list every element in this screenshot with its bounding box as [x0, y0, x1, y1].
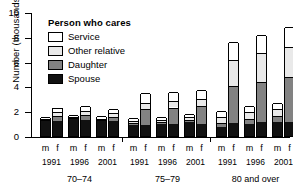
bar-segment-other	[169, 101, 178, 108]
y-axis-tick	[25, 137, 31, 138]
group-separator-tick	[210, 137, 211, 142]
bar-segment-daughter	[229, 86, 238, 123]
bar	[96, 117, 107, 137]
x-axis-sex-label: f	[284, 144, 293, 153]
legend-swatch	[48, 46, 63, 56]
x-axis-age-group-label: 80 and over	[216, 175, 294, 184]
bar-segment-daughter	[185, 120, 194, 122]
legend-swatch	[48, 32, 63, 42]
legend-item: Service	[48, 30, 168, 44]
bar-segment-service	[285, 27, 293, 47]
bar-segment-daughter	[109, 117, 118, 121]
bar-segment-service	[129, 118, 138, 121]
bar-segment-service	[81, 106, 90, 110]
bar-segment-other	[129, 121, 138, 123]
y-axis-tick	[25, 63, 31, 64]
bar-segment-other	[141, 103, 150, 109]
bar-segment-spouse	[217, 127, 226, 136]
bar-segment-other	[245, 112, 254, 118]
x-axis-sex-label: m	[216, 144, 227, 153]
legend-item-label: Spouse	[68, 74, 100, 84]
bar-segment-daughter	[141, 109, 150, 125]
bar	[140, 94, 151, 137]
bar-segment-service	[109, 109, 118, 113]
x-axis-sex-label: f	[228, 144, 239, 153]
x-axis-age-group-label: 70–74	[40, 175, 120, 184]
legend-item-label: Daughter	[68, 60, 107, 70]
bar-segment-other	[53, 112, 62, 116]
y-axis-tick-label: 8	[3, 33, 19, 43]
bar-segment-other	[81, 111, 90, 115]
bar-segment-service	[141, 93, 150, 102]
x-axis-sex-label: m	[184, 144, 195, 153]
bar-segment-spouse	[41, 121, 50, 136]
x-axis-sex-label: m	[96, 144, 107, 153]
x-axis-year-label: 2001	[183, 158, 209, 167]
x-axis-sex-label: f	[140, 144, 151, 153]
bar-segment-daughter	[41, 120, 50, 121]
x-axis-age-group-label: 75–79	[128, 175, 208, 184]
bar	[244, 107, 255, 137]
legend-item: Spouse	[48, 72, 168, 86]
legend-item-label: Service	[68, 32, 100, 42]
bar-segment-daughter	[129, 123, 138, 125]
bar-segment-spouse	[53, 121, 62, 136]
bar-segment-spouse	[81, 120, 90, 136]
bar-segment-daughter	[257, 82, 266, 122]
stacked-bar-chart: Number (thousands) 0246810 Person who ca…	[0, 0, 293, 188]
bar-segment-service	[197, 90, 206, 99]
x-axis-line	[31, 137, 290, 138]
bar-segment-service	[69, 115, 78, 117]
legend-swatch	[48, 74, 63, 84]
bar	[40, 118, 51, 137]
bar-segment-spouse	[185, 122, 194, 136]
bar	[52, 108, 63, 137]
bar-segment-spouse	[229, 123, 238, 136]
bar-segment-other	[41, 119, 50, 120]
y-axis-tick	[25, 13, 31, 14]
bar-segment-daughter	[273, 116, 282, 122]
y-axis-tick	[25, 87, 31, 88]
bar-segment-spouse	[257, 122, 266, 136]
bar	[128, 119, 139, 137]
y-axis-tick	[25, 38, 31, 39]
x-axis-year-label: 1996	[155, 158, 181, 167]
bar-segment-spouse	[245, 124, 254, 136]
x-axis-sex-label: m	[128, 144, 139, 153]
x-axis-sex-label: m	[244, 144, 255, 153]
bar	[256, 36, 267, 137]
bar-segment-spouse	[157, 124, 166, 136]
bar-segment-other	[69, 117, 78, 118]
x-axis-year-label: 1991	[39, 158, 65, 167]
x-axis-sex-label: f	[108, 144, 119, 153]
bar-segment-service	[97, 116, 106, 118]
y-axis-tick-label: 0	[3, 132, 19, 142]
bar-segment-daughter	[69, 118, 78, 119]
bar-segment-service	[257, 35, 266, 53]
bar-segment-service	[229, 42, 238, 60]
legend: Person who cares ServiceOther relativeDa…	[48, 17, 168, 86]
bar-segment-other	[217, 117, 226, 123]
bar-segment-daughter	[97, 120, 106, 121]
bar-segment-service	[53, 108, 62, 112]
bar-segment-other	[229, 60, 238, 86]
y-axis-tick-label: 6	[3, 58, 19, 68]
bar-segment-service	[157, 117, 166, 119]
x-axis-sex-label: f	[80, 144, 91, 153]
y-axis-tick	[25, 112, 31, 113]
x-axis-sex-label: m	[68, 144, 79, 153]
legend-item: Daughter	[48, 58, 168, 72]
x-axis-year-label: 2001	[271, 158, 294, 167]
bar-segment-other	[109, 113, 118, 117]
bar	[156, 118, 167, 137]
x-axis-sex-label: m	[272, 144, 283, 153]
x-axis-year-label: 1996	[67, 158, 93, 167]
bar-segment-daughter	[245, 119, 254, 124]
bar-segment-daughter	[81, 115, 90, 120]
bar-segment-service	[245, 106, 254, 112]
bar	[108, 110, 119, 137]
bar-segment-spouse	[197, 124, 206, 136]
bar-segment-daughter	[53, 116, 62, 121]
legend-swatch	[48, 60, 63, 70]
bar	[68, 116, 79, 137]
